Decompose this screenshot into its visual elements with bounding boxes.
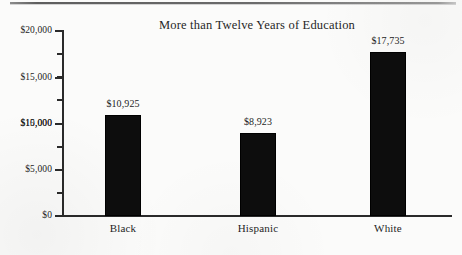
y-axis-label-15000b: $15,000 (0, 72, 52, 82)
y-axis-tick-minor (57, 99, 63, 101)
bar-black (105, 115, 141, 216)
y-axis-tick-major (55, 215, 63, 217)
plot-area: $20,000 $15,000 $0 $10,000 $5,000 $15,00… (0, 0, 462, 255)
y-axis-label-0: $0 (0, 210, 52, 220)
x-axis-label-hispanic: Hispanic (218, 222, 298, 234)
y-axis-tick-major-15000 (55, 77, 63, 79)
y-axis-tick-minor (57, 146, 63, 148)
y-axis-label-20000: $20,000 (0, 25, 52, 35)
y-axis-tick-major-5000 (55, 169, 63, 171)
bar-value-hispanic: $8,923 (218, 116, 298, 127)
bar-white (370, 52, 406, 216)
bar-value-white: $17,735 (348, 35, 428, 46)
x-axis-label-black: Black (83, 222, 163, 234)
y-axis-label-10000: $10,000 (0, 118, 52, 128)
bar-hispanic (240, 133, 276, 216)
y-axis-tick-minor (57, 192, 63, 194)
y-axis-tick-major (55, 30, 63, 32)
chart-figure: More than Twelve Years of Education $20,… (0, 0, 462, 255)
y-axis-label-5000: $5,000 (0, 164, 52, 174)
y-axis-tick-minor (57, 53, 63, 55)
y-axis-tick-major-10000 (55, 123, 63, 125)
bar-value-black: $10,925 (83, 98, 163, 109)
x-axis-label-white: White (348, 222, 428, 234)
